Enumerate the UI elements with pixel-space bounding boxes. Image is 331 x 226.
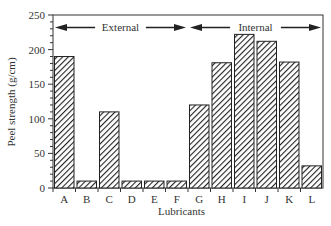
x-tick-label: B: [83, 193, 90, 205]
x-tick-label: K: [285, 193, 293, 205]
x-tick-label: G: [195, 193, 203, 205]
bar-h: [212, 63, 232, 188]
annotation-label-internal: Internal: [238, 21, 272, 33]
bar-d: [122, 181, 142, 188]
x-tick-label: F: [174, 193, 180, 205]
bar-i: [235, 34, 255, 188]
bar-l: [302, 166, 322, 188]
bar-f: [167, 181, 187, 188]
annotation-label-external: External: [102, 21, 139, 33]
x-tick-label: H: [218, 193, 226, 205]
y-axis-label: Peel strength (g/cm): [5, 47, 17, 157]
x-tick-label: L: [308, 193, 315, 205]
x-tick-label: A: [60, 193, 68, 205]
y-tick-label: 50: [34, 147, 46, 159]
x-tick-label: D: [128, 193, 136, 205]
x-tick-label: I: [242, 193, 246, 205]
bar-k: [280, 62, 300, 188]
bar-c: [100, 112, 120, 188]
x-tick-label: E: [151, 193, 158, 205]
y-tick-label: 0: [40, 182, 46, 194]
arrow-right-icon: [174, 24, 186, 31]
x-tick-label: C: [106, 193, 113, 205]
bar-chart: 050100150200250ABCDEFGHIJKLExternalInter…: [0, 0, 331, 226]
bar-a: [55, 57, 75, 188]
arrow-left-icon: [190, 24, 202, 31]
arrow-left-icon: [55, 24, 67, 31]
bar-e: [145, 181, 165, 188]
y-tick-label: 150: [29, 78, 46, 90]
y-tick-label: 200: [29, 44, 46, 56]
bar-b: [77, 181, 97, 188]
x-axis-label: Lubricants: [158, 205, 205, 217]
arrow-right-icon: [309, 24, 321, 31]
plot-area: 050100150200250ABCDEFGHIJKLExternalInter…: [29, 9, 324, 205]
x-tick-label: J: [265, 193, 270, 205]
y-tick-label: 250: [29, 9, 46, 21]
bar-g: [190, 105, 210, 188]
bar-j: [257, 41, 277, 188]
y-tick-label: 100: [29, 113, 46, 125]
